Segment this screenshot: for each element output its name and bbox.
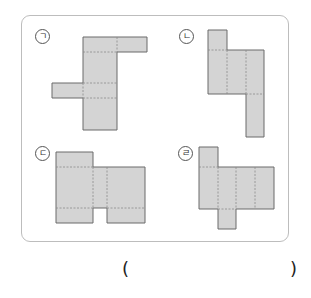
net-rieul	[199, 147, 274, 229]
net-digeut	[56, 152, 145, 223]
nets-figure	[0, 0, 311, 298]
net-nieun	[208, 30, 264, 137]
answer-blank[interactable]	[140, 260, 280, 280]
answer-open-paren: (	[122, 258, 129, 279]
net-giyeok	[52, 37, 147, 130]
answer-close-paren: )	[290, 258, 297, 279]
